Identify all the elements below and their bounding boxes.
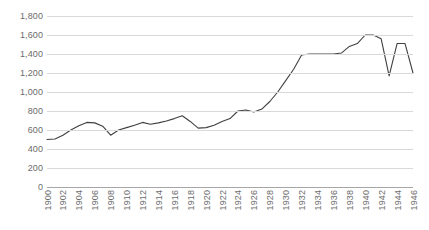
x-tick-label: 1918 <box>187 190 196 210</box>
x-tick-label: 1930 <box>282 190 291 210</box>
gridline <box>47 92 413 93</box>
y-tick-label: 1,000 <box>0 88 43 97</box>
x-tick-label: 1946 <box>410 190 419 210</box>
x-tick-label: 1944 <box>394 190 403 210</box>
y-tick-label: 600 <box>0 126 43 135</box>
x-tick-label: 1934 <box>314 190 323 210</box>
x-tick-label: 1914 <box>155 190 164 210</box>
x-tick-label: 1900 <box>44 190 53 210</box>
series-layer <box>47 16 413 187</box>
x-tick-label: 1942 <box>378 190 387 210</box>
x-tick-label: 1940 <box>362 190 371 210</box>
x-axis: 1900190219041906190819101912191419161918… <box>47 190 413 230</box>
gridline <box>47 54 413 55</box>
y-tick-label: 1,200 <box>0 69 43 78</box>
x-tick-label: 1904 <box>75 190 84 210</box>
x-tick-label: 1928 <box>266 190 275 210</box>
y-tick-label: 1,600 <box>0 31 43 40</box>
x-tick-label: 1916 <box>171 190 180 210</box>
x-tick-label: 1908 <box>107 190 116 210</box>
gridline <box>47 130 413 131</box>
y-tick-label: 800 <box>0 107 43 116</box>
x-tick-label: 1924 <box>234 190 243 210</box>
x-tick-label: 1936 <box>330 190 339 210</box>
gridline <box>47 73 413 74</box>
x-tick-label: 1912 <box>139 190 148 210</box>
x-tick-label: 1938 <box>346 190 355 210</box>
x-axis-line <box>47 187 413 188</box>
x-tick-label: 1906 <box>91 190 100 210</box>
x-tick-label: 1926 <box>250 190 259 210</box>
gridline <box>47 35 413 36</box>
gridline <box>47 111 413 112</box>
x-tick-label: 1922 <box>219 190 228 210</box>
gridline <box>47 168 413 169</box>
x-tick-label: 1932 <box>298 190 307 210</box>
y-tick-label: 1,800 <box>0 12 43 21</box>
x-tick-label: 1902 <box>59 190 68 210</box>
y-tick-label: 0 <box>0 183 43 192</box>
y-axis: 02004006008001,0001,2001,4001,6001,800 <box>0 0 43 203</box>
y-tick-label: 1,400 <box>0 50 43 59</box>
x-tick-label: 1920 <box>203 190 212 210</box>
x-tick-label: 1910 <box>123 190 132 210</box>
gridline <box>47 149 413 150</box>
y-tick-label: 400 <box>0 145 43 154</box>
data-series-line <box>47 35 413 140</box>
line-chart: 02004006008001,0001,2001,4001,6001,800 1… <box>0 0 429 230</box>
y-tick-label: 200 <box>0 164 43 173</box>
plot-area <box>47 16 413 187</box>
gridline <box>47 16 413 17</box>
